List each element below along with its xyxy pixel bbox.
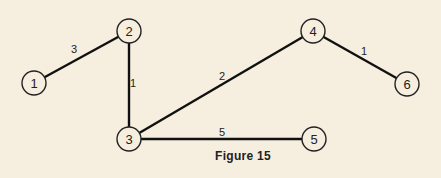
edge-weight-label: 5	[219, 126, 225, 138]
node-3: 3	[117, 127, 141, 151]
figure-caption: Figure 15	[215, 149, 271, 163]
edge-weight-label: 1	[361, 45, 367, 57]
svg-text:1: 1	[30, 76, 37, 91]
node-6: 6	[395, 72, 419, 96]
node-2: 2	[117, 19, 141, 43]
edge-weight-label: 3	[71, 43, 77, 55]
svg-text:3: 3	[125, 132, 132, 147]
edge-1-2	[34, 31, 129, 83]
svg-text:6: 6	[403, 77, 410, 92]
svg-text:4: 4	[309, 24, 316, 39]
edge-4-6	[313, 31, 407, 84]
node-4: 4	[301, 19, 325, 43]
edge-weight-label: 2	[219, 70, 225, 82]
edge-weight-label: 1	[130, 77, 136, 89]
node-1: 1	[22, 71, 46, 95]
node-5: 5	[302, 127, 326, 151]
svg-text:2: 2	[125, 24, 132, 39]
edge-3-4	[129, 31, 313, 139]
svg-text:5: 5	[310, 132, 317, 147]
